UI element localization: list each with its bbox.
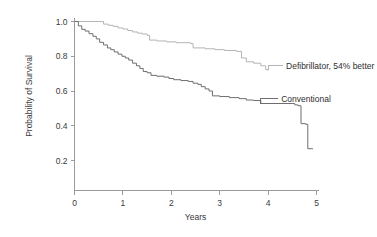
y-axis-ticks: 0.20.40.60.81.0 [56,17,75,166]
x-tick-label: 2 [169,198,174,208]
x-tick-label: 5 [314,198,319,208]
x-axis-title: Years [185,212,206,222]
chart-series-group [75,22,313,150]
y-tick-label: 0.2 [56,156,68,166]
leader-line-defibrillator [268,66,283,71]
series-line-defibrillator [75,22,269,71]
y-tick-label: 1.0 [56,17,68,27]
x-tick-label: 3 [217,198,222,208]
series-line-conventional [75,22,313,150]
annotation-leaders [261,66,283,104]
y-axis-title: Probability of Survival [24,55,34,137]
x-tick-label: 0 [72,198,77,208]
x-tick-label: 1 [121,198,126,208]
y-tick-label: 0.8 [56,51,68,61]
series-label-conventional: Conventional [281,94,331,104]
series-label-defibrillator: Defibrillator, 54% better [286,61,375,71]
x-axis-ticks: 012345 [72,191,319,208]
survival-chart-figure: 0.20.40.60.81.0 012345 Defibrillator, 54… [0,0,377,237]
x-tick-label: 4 [266,198,271,208]
y-tick-label: 0.4 [56,121,68,131]
y-tick-label: 0.6 [56,86,68,96]
leader-line-conventional [261,99,278,104]
survival-chart-svg: 0.20.40.60.81.0 012345 Defibrillator, 54… [0,0,377,237]
